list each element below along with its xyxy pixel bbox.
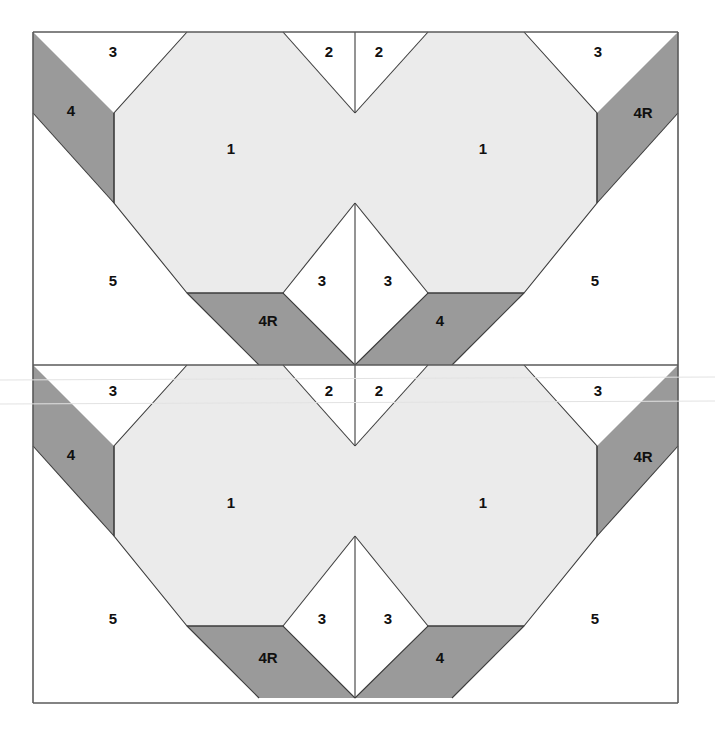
piece-label-3: 3 (594, 382, 602, 399)
piece-label-3: 3 (594, 43, 602, 60)
piece-label-1: 1 (227, 140, 235, 157)
block-top-right-half (355, 32, 678, 365)
piece-label-4r: 4R (633, 448, 652, 465)
piece-label-3: 3 (318, 610, 326, 627)
block-bottom (33, 365, 678, 698)
block-top-left-half (33, 32, 355, 365)
piece-label-5: 5 (591, 610, 599, 627)
piece-label-4r: 4R (258, 649, 277, 666)
quilt-block-diagram: 34154R23234R153434154R23234R1534 (0, 0, 715, 743)
piece-label-3: 3 (109, 382, 117, 399)
piece-label-5: 5 (109, 610, 117, 627)
piece-label-4r: 4R (633, 104, 652, 121)
piece-label-4: 4 (436, 312, 445, 329)
piece-label-4r: 4R (258, 312, 277, 329)
piece-label-5: 5 (109, 272, 117, 289)
piece-label-2: 2 (325, 382, 333, 399)
piece-label-2: 2 (325, 43, 333, 60)
piece-label-3: 3 (384, 272, 392, 289)
piece-label-4: 4 (436, 649, 445, 666)
piece-label-2: 2 (375, 43, 383, 60)
piece-label-1: 1 (479, 140, 487, 157)
piece-label-3: 3 (384, 610, 392, 627)
piece-label-1: 1 (479, 494, 487, 511)
block-top (33, 32, 678, 365)
piece-label-1: 1 (227, 494, 235, 511)
piece-label-3: 3 (109, 43, 117, 60)
piece-label-2: 2 (375, 382, 383, 399)
piece-label-4: 4 (67, 446, 76, 463)
piece-label-3: 3 (318, 272, 326, 289)
diagram-canvas: 34154R23234R153434154R23234R1534 (0, 0, 715, 743)
block-bottom-right-half (355, 365, 678, 698)
block-bottom-left-half (33, 365, 355, 698)
piece-label-5: 5 (591, 272, 599, 289)
piece-label-4: 4 (67, 102, 76, 119)
